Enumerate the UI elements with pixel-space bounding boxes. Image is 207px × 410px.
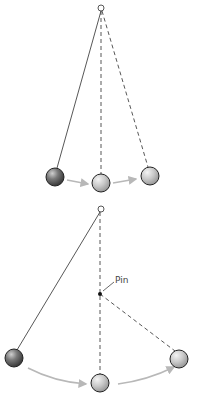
pendulum-diagram: Pin (0, 0, 207, 410)
pinned-pendulum: Pin (5, 206, 188, 392)
pin-dashed-string (100, 294, 175, 351)
right-dashed-string (102, 11, 148, 167)
pin-label: Pin (115, 275, 128, 285)
bob-middle (91, 374, 109, 392)
swing-arrow (118, 367, 174, 384)
pendulum-string (57, 11, 101, 168)
bob-end (141, 167, 159, 185)
swing-arrow (28, 368, 86, 384)
pin-leader-line (103, 282, 114, 291)
pin-point (98, 292, 102, 296)
pendulum-string (17, 212, 100, 350)
swing-arrow (113, 179, 136, 183)
bob-start (5, 349, 23, 367)
bob-start (46, 168, 64, 186)
bob-middle (92, 174, 110, 192)
pivot-point (98, 5, 104, 11)
bob-end (170, 350, 188, 368)
simple-pendulum (46, 5, 159, 192)
swing-arrow (67, 180, 88, 184)
pivot-point (98, 206, 104, 212)
